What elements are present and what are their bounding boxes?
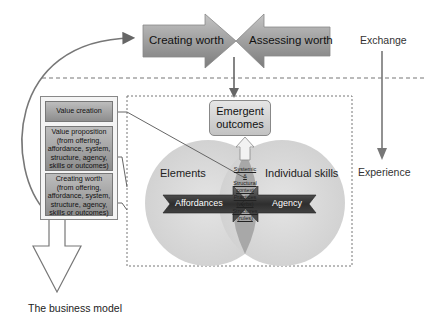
elements-label: Elements: [160, 167, 206, 179]
creating-worth-label: Creating worth: [149, 34, 224, 46]
agency-label: Agency: [272, 198, 302, 208]
experience-label: Experience: [358, 166, 411, 178]
overlap-line: Structural: [229, 180, 261, 187]
creating-worth-box: Creating worth (from offering, affordanc…: [45, 173, 113, 216]
overlap-line: Structures: [229, 208, 261, 215]
business-model-label: The business model: [28, 302, 122, 314]
overlap-line: &: [229, 173, 261, 180]
overlap-line: context: [229, 187, 261, 194]
exchange-label: Exchange: [360, 34, 407, 46]
business-model-arrow: [33, 218, 81, 292]
value-proposition-box: Value proposition (from offering, afford…: [45, 126, 113, 171]
value-creation-box: Value creation: [45, 101, 113, 122]
individual-skills-label: Individual skills: [265, 167, 338, 179]
overlap-line: (rules): [229, 215, 261, 222]
overlap-context-text: Systemic & Structural context Practices …: [229, 166, 261, 222]
overlap-line: (verbs): [229, 201, 261, 208]
assessing-worth-label: Assessing worth: [249, 34, 333, 46]
overlap-line: Practices: [229, 194, 261, 201]
affordances-label: Affordances: [175, 198, 223, 208]
left-column-panel: Value creation Value proposition (from o…: [40, 96, 118, 220]
emergent-outcomes-box: Emergent outcomes: [209, 100, 271, 136]
overlap-line: Systemic: [229, 166, 261, 173]
